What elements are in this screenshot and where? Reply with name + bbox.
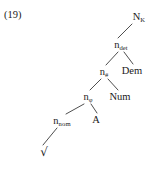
- tree-node-n-num: n#: [100, 67, 109, 78]
- edge-ndet-nnum: [106, 52, 118, 65]
- tree-node-n-phi: nφ: [83, 92, 92, 103]
- edge-nnom-root: [43, 128, 57, 145]
- tree-node-n-nom: nnom: [53, 116, 70, 127]
- edge-nphi-a: [91, 104, 97, 113]
- tree-node-n-det-subscript: det: [119, 44, 127, 51]
- tree-node-n-det: ndet: [114, 40, 128, 51]
- tree-diagram-figure: (19) NKndetn#DemnφNumnnomA√: [0, 0, 164, 174]
- tree-node-n-phi-subscript: φ: [89, 96, 93, 103]
- edge-nphi-nnom: [66, 104, 84, 114]
- tree-node-a-label: A: [92, 114, 100, 125]
- tree-node-root: √: [40, 146, 48, 158]
- tree-node-dem: Dem: [122, 66, 142, 77]
- tree-node-num: Num: [110, 92, 131, 103]
- tree-node-n-k-label: N: [133, 11, 141, 22]
- tree-node-num-label: Num: [110, 91, 131, 102]
- tree-node-root-label: √: [40, 145, 48, 159]
- tree-node-n-k-subscript: K: [140, 16, 145, 23]
- tree-node-n-k: NK: [133, 12, 145, 23]
- tree-node-n-num-subscript: #: [105, 71, 108, 78]
- tree-node-n-nom-subscript: nom: [59, 120, 71, 127]
- tree-branch-lines: [0, 0, 164, 174]
- tree-node-a: A: [92, 115, 100, 126]
- edge-ndet-dem: [124, 52, 133, 64]
- tree-node-dem-label: Dem: [122, 65, 142, 76]
- edge-nnum-nphi: [90, 79, 101, 90]
- edge-nnum-num: [108, 79, 118, 90]
- edge-nk-ndet: [118, 24, 132, 38]
